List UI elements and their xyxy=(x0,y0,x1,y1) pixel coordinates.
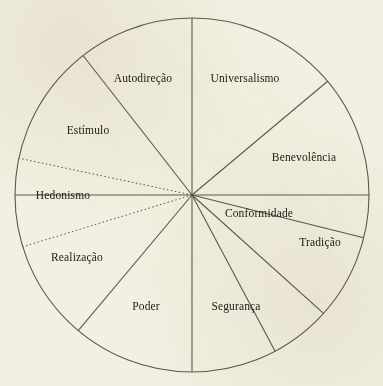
divider-lines-group xyxy=(15,18,369,372)
divider-poder-realizacao xyxy=(78,195,192,331)
wheel-graphic xyxy=(0,0,383,386)
divider-realizacao-hedonismo xyxy=(23,195,192,247)
divider-tradicao-seguranca xyxy=(192,195,275,351)
divider-universalismo-benevolencia xyxy=(192,81,328,195)
divider-conformidade-tradicao xyxy=(192,195,324,313)
divider-benevolencia-conformidade xyxy=(192,195,364,238)
divider-hedonismo-estimulo xyxy=(19,158,192,195)
divider-estimulo-autodirecao xyxy=(83,56,192,195)
values-circumplex-diagram: AutodireçãoUniversalismoBenevolênciaConf… xyxy=(0,0,383,386)
